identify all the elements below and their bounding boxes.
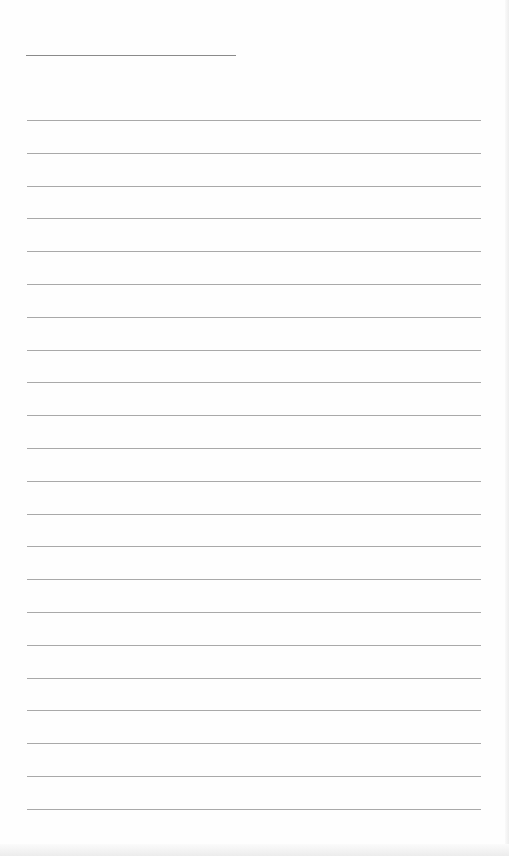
- ruled-line: [27, 776, 481, 777]
- ruled-line: [27, 186, 481, 187]
- ruled-line: [27, 481, 481, 482]
- ruled-line: [27, 120, 481, 121]
- ruled-line: [27, 382, 481, 383]
- ruled-line: [27, 546, 481, 547]
- ruled-line: [27, 218, 481, 219]
- page-edge-bottom: [0, 844, 509, 856]
- ruled-line: [27, 153, 481, 154]
- title-underline: [26, 55, 236, 56]
- ruled-line: [27, 448, 481, 449]
- ruled-line: [27, 317, 481, 318]
- ruled-line: [27, 350, 481, 351]
- ruled-line: [27, 612, 481, 613]
- ruled-line: [27, 678, 481, 679]
- ruled-line: [27, 251, 481, 252]
- ruled-page: [0, 0, 509, 856]
- ruled-line: [27, 743, 481, 744]
- ruled-line: [27, 710, 481, 711]
- ruled-line: [27, 579, 481, 580]
- ruled-line: [27, 284, 481, 285]
- ruled-line: [27, 415, 481, 416]
- page-edge-right: [505, 0, 509, 856]
- ruled-line: [27, 809, 481, 810]
- ruled-line: [27, 645, 481, 646]
- ruled-line: [27, 514, 481, 515]
